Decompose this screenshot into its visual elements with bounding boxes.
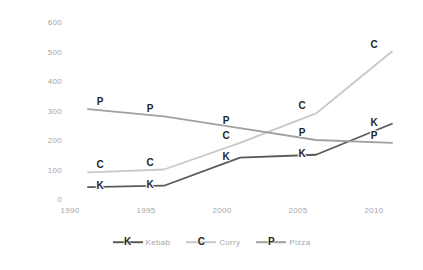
chart-legend: KKebabCCurryPPizza <box>0 236 423 248</box>
legend-item-kebab[interactable]: KKebab <box>113 236 171 248</box>
legend-marker-icon: P <box>268 237 275 247</box>
series-line-pizza <box>88 109 392 143</box>
legend-item-pizza[interactable]: PPizza <box>256 236 310 248</box>
legend-item-curry[interactable]: CCurry <box>186 236 240 248</box>
series-line-curry <box>88 52 392 173</box>
chart-series-lines <box>0 0 423 270</box>
legend-label: Curry <box>219 238 240 247</box>
legend-marker-icon: K <box>124 237 131 247</box>
legend-swatch-kebab: K <box>113 236 143 248</box>
legend-swatch-curry: C <box>186 236 216 248</box>
series-line-kebab <box>88 124 392 187</box>
legend-swatch-pizza: P <box>256 236 286 248</box>
legend-marker-icon: C <box>198 237 205 247</box>
legend-label: Pizza <box>289 238 310 247</box>
legend-label: Kebab <box>146 238 171 247</box>
line-chart: 0100200300400500600 19901995200020052010… <box>0 0 423 270</box>
